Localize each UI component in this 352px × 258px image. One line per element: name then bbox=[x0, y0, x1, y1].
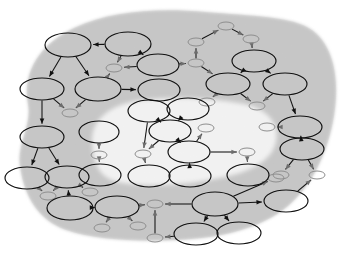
diagram-canvas bbox=[0, 0, 352, 258]
graph-svg bbox=[0, 0, 352, 258]
